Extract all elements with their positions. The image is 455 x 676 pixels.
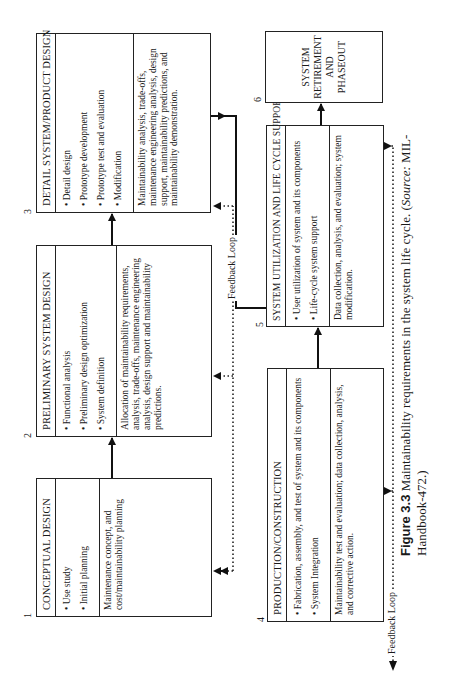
- stage-number-1: 1: [22, 613, 33, 618]
- upper-feedback-loop-label: Feedback Loop: [226, 235, 237, 301]
- diagram-canvas: 1 CONCEPTUAL DESIGN • Use study • Initia…: [0, 0, 455, 676]
- box-item: • System Integration: [310, 375, 321, 615]
- box-description: Maintainability test and evaluation; dat…: [331, 369, 383, 621]
- box-item: • Detail design: [62, 40, 73, 206]
- box-item: • Use study: [62, 485, 73, 610]
- box-description: Maintenance concept, and cost/maintainab…: [100, 479, 211, 616]
- box-description: Maintainability analysis, trade-offs, ma…: [134, 34, 210, 212]
- box-items: • Detail design • Prototype development …: [56, 34, 134, 212]
- box-line: SYSTEM: [300, 35, 312, 98]
- box-item: • Preliminary design optimization: [79, 252, 90, 430]
- system-utilization-box: SYSTEM UTILIZATION AND LIFE CYCLE SUPPOR…: [266, 125, 384, 327]
- conceptual-design-box: CONCEPTUAL DESIGN • Use study • Initial …: [36, 478, 212, 617]
- figure-label: Figure 3.3: [398, 495, 413, 556]
- box-item: • Life-cycle system support: [309, 132, 320, 320]
- preliminary-system-design-box: PRELIMINARY SYSTEM DESIGN • Functional a…: [36, 245, 212, 437]
- box-item: • User utilization of system and its com…: [292, 132, 303, 320]
- box-line: PHASEOUT: [336, 35, 348, 98]
- production-construction-box: PRODUCTION/CONSTRUCTION • Fabrication, a…: [267, 368, 384, 622]
- box-item: • System definition: [96, 252, 107, 430]
- box-title: CONCEPTUAL DESIGN: [37, 479, 56, 616]
- source-label: Source:: [398, 166, 413, 206]
- box-title: SYSTEM UTILIZATION AND LIFE CYCLE SUPPOR…: [267, 126, 286, 326]
- box-line: AND: [324, 35, 336, 98]
- box-title: DETAIL SYSTEM/PRODUCT DESIGN: [37, 34, 56, 212]
- figure-caption: Figure 3.3 Maintainability requirements …: [398, 86, 431, 556]
- stage-number-2: 2: [22, 433, 33, 438]
- stage-number-6: 6: [252, 97, 263, 102]
- stage-number-4: 4: [255, 617, 266, 622]
- box-item: • Modification: [113, 40, 124, 206]
- box-description: Allocation of maintainability requiremen…: [117, 246, 211, 436]
- box-items: • User utilization of system and its com…: [286, 126, 330, 326]
- box-item: • Prototype development: [79, 40, 90, 206]
- box-title: PRELIMINARY SYSTEM DESIGN: [37, 246, 56, 436]
- lower-feedback-loop-label: Feedback Loop: [386, 590, 397, 656]
- box-title: PRODUCTION/CONSTRUCTION: [268, 369, 287, 621]
- box-item: • Prototype test and evaluation: [96, 40, 107, 206]
- stage-number-3: 3: [22, 209, 33, 214]
- stage-number-5: 5: [254, 322, 265, 327]
- box-items: • Fabrication, assembly, and test of sys…: [287, 369, 331, 621]
- system-retirement-box: SYSTEM RETIREMENT AND PHASEOUT: [265, 31, 383, 103]
- box-items: • Use study • Initial planning: [56, 479, 100, 616]
- box-item: • Initial planning: [79, 485, 90, 610]
- detail-system-product-design-box: DETAIL SYSTEM/PRODUCT DESIGN • Detail de…: [36, 33, 211, 213]
- box-description: Data collection, analysis, and evaluatio…: [330, 126, 383, 326]
- box-items: • Functional analysis • Preliminary desi…: [56, 246, 117, 436]
- caption-text: Maintainability requirements in the syst…: [398, 206, 413, 494]
- box-item: • Functional analysis: [62, 252, 73, 430]
- box-line: RETIREMENT: [312, 35, 324, 98]
- box-item: • Fabrication, assembly, and test of sys…: [293, 375, 304, 615]
